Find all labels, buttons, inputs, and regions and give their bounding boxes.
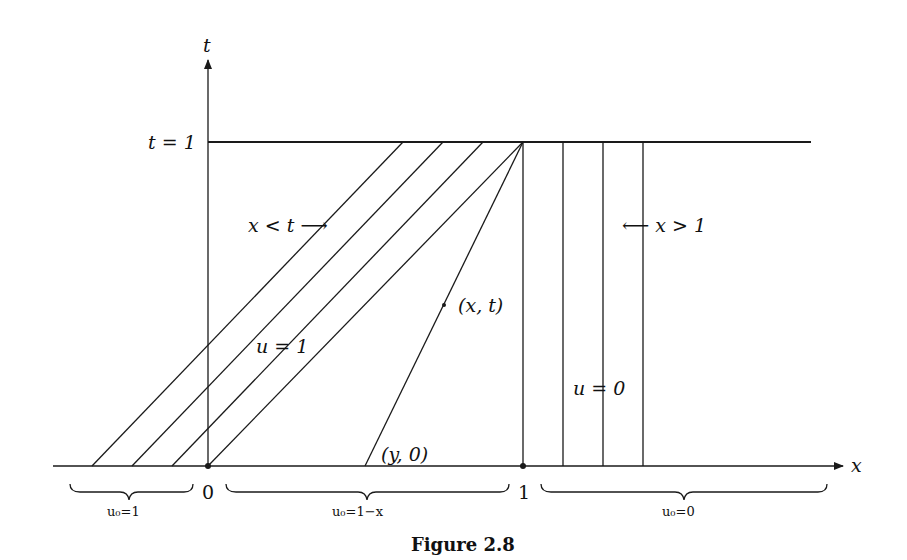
u-equals-0-label: u = 0	[573, 377, 625, 399]
x-less-than-t-label: x < t ⟶	[248, 214, 328, 236]
t-axis-label: t	[203, 34, 211, 56]
origin-label: 0	[202, 481, 214, 503]
point-y0-label: (y, 0)	[381, 443, 428, 465]
x-equals-1-dot	[520, 463, 526, 469]
point-xt-dot	[442, 303, 446, 307]
brace-right-label: u₀=0	[662, 504, 695, 519]
x-greater-than-1-label: ⟵ x > 1	[622, 214, 706, 236]
one-label: 1	[518, 481, 530, 503]
brace-left	[70, 484, 193, 500]
characteristics-diagram: x t t = 1 (x, t) (y, 0) 0 1 x < t ⟶ ⟵ x …	[0, 0, 907, 560]
x-axis-label: x	[851, 454, 862, 476]
characteristics-u0	[523, 142, 643, 466]
u-equals-1-label: u = 1	[256, 335, 308, 357]
brace-middle	[226, 484, 509, 500]
brace-middle-label: u₀=1−x	[332, 504, 384, 519]
t-equals-1-label: t = 1	[148, 131, 196, 153]
figure-caption: Figure 2.8	[411, 534, 515, 555]
brace-left-label: u₀=1	[107, 504, 140, 519]
point-xt-label: (x, t)	[458, 294, 503, 316]
brace-right	[541, 484, 827, 500]
origin-dot	[205, 463, 211, 469]
